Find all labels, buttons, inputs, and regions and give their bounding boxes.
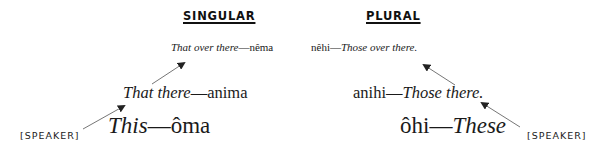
arrows-layer	[0, 0, 604, 155]
singular-speaker-to-mid-arrow-icon	[83, 106, 124, 129]
plural-speaker-to-mid-arrow-icon	[482, 103, 520, 127]
plural-mid-to-far-arrow-icon	[424, 65, 455, 85]
singular-mid-to-far-arrow-icon	[152, 63, 184, 84]
